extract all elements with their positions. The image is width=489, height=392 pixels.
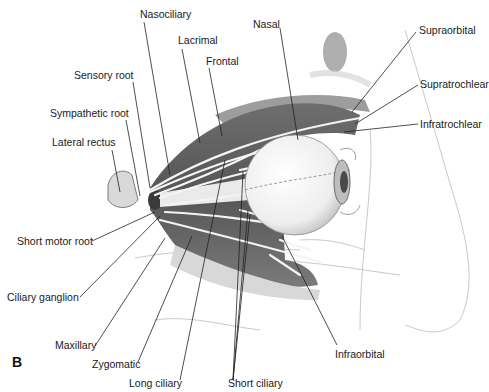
label-zygomatic: Zygomatic bbox=[92, 358, 140, 370]
label-infraorbital: Infraorbital bbox=[335, 348, 385, 360]
label-supraorbital: Supraorbital bbox=[419, 24, 476, 36]
label-supratrochlear: Supratrochlear bbox=[420, 78, 489, 90]
label-maxillary: Maxillary bbox=[55, 339, 96, 351]
eyeball bbox=[245, 135, 345, 235]
label-long-ciliary: Long ciliary bbox=[129, 377, 182, 389]
label-short-ciliary: Short ciliary bbox=[228, 377, 283, 389]
label-short-motor-root: Short motor root bbox=[17, 235, 93, 247]
label-nasal: Nasal bbox=[253, 18, 280, 30]
label-infratrochlear: Infratrochlear bbox=[420, 118, 482, 130]
label-lateral-rectus: Lateral rectus bbox=[52, 136, 116, 148]
panel-letter: B bbox=[12, 354, 22, 370]
label-sensory-root: Sensory root bbox=[74, 69, 134, 81]
label-frontal: Frontal bbox=[206, 55, 239, 67]
frontal-sinus bbox=[323, 32, 347, 72]
label-lacrimal: Lacrimal bbox=[178, 34, 218, 46]
label-nasociliary: Nasociliary bbox=[140, 8, 191, 20]
label-ciliary-ganglion: Ciliary ganglion bbox=[7, 291, 79, 303]
lateral-rectus-stump bbox=[108, 171, 138, 207]
label-sympathetic-root: Sympathetic root bbox=[50, 107, 129, 119]
